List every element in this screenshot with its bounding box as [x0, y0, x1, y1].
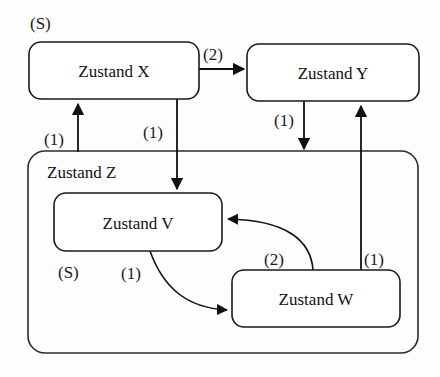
transition-w-to-y-label: (1): [364, 250, 384, 269]
diagram-svg: Zustand Z (1) (1) (2) (1) (1): [0, 0, 440, 377]
transition-w-to-v-label: (2): [264, 250, 284, 269]
transition-y-to-z-label: (1): [274, 111, 294, 130]
state-node-v[interactable]: Zustand V: [54, 193, 222, 251]
start-marker-v-label: (S): [58, 263, 79, 282]
transition-w-to-v[interactable]: (2): [228, 219, 313, 270]
transition-x-to-v[interactable]: (1): [143, 99, 177, 189]
transition-v-to-w-label: (1): [121, 264, 141, 283]
transition-x-to-y[interactable]: (2): [199, 45, 244, 69]
transition-w-to-y[interactable]: (1): [361, 106, 384, 270]
transition-v-to-w[interactable]: (1): [121, 251, 227, 310]
state-y-label: Zustand Y: [298, 64, 369, 83]
state-diagram-canvas: Zustand Z (1) (1) (2) (1) (1): [0, 0, 440, 377]
transition-x-to-v-label: (1): [143, 123, 163, 142]
state-node-x[interactable]: Zustand X: [29, 42, 199, 99]
state-node-w[interactable]: Zustand W: [232, 270, 400, 327]
state-node-y[interactable]: Zustand Y: [247, 44, 419, 101]
state-x-label: Zustand X: [78, 62, 149, 81]
transition-x-to-y-label: (2): [203, 45, 223, 64]
state-w-label: Zustand W: [279, 290, 355, 309]
transition-z-to-x[interactable]: (1): [44, 104, 78, 152]
start-marker-x-label: (S): [30, 14, 51, 33]
transition-z-to-x-label: (1): [44, 130, 64, 149]
state-z-label: Zustand Z: [47, 163, 116, 182]
state-v-label: Zustand V: [103, 214, 175, 233]
transition-v-to-w-curve: [150, 251, 227, 310]
transition-y-to-z[interactable]: (1): [274, 101, 304, 149]
